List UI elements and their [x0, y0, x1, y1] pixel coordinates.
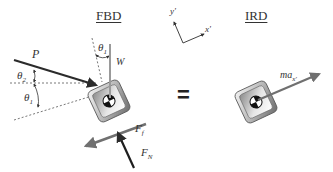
friction-force-label: Ff	[135, 123, 144, 137]
theta2-label: θ2	[17, 70, 26, 84]
theta1-left-label: θ1	[24, 92, 33, 106]
inertial-force-label: max'	[280, 70, 297, 83]
theta2-arc	[34, 70, 35, 82]
y-prime-axis	[174, 22, 183, 43]
force-p-label: P	[32, 48, 39, 60]
ird-title: IRD	[245, 8, 267, 24]
weight-label: W	[116, 57, 124, 67]
normal-force-label: FN	[141, 147, 152, 161]
x-prime-label: x'	[205, 25, 211, 34]
theta1-top-label: θ1	[98, 42, 107, 56]
coordinate-axes	[174, 22, 204, 43]
equals-sign: =	[177, 84, 190, 106]
ird-block	[233, 79, 278, 124]
fbd-title: FBD	[96, 8, 121, 24]
force-p-arrow	[14, 60, 96, 85]
theta1-left-arc	[34, 84, 39, 107]
x-prime-axis	[183, 34, 204, 43]
fbd-ird-diagram	[0, 0, 333, 172]
normal-force-arrow	[118, 133, 134, 168]
y-prime-label: y'	[170, 7, 176, 16]
